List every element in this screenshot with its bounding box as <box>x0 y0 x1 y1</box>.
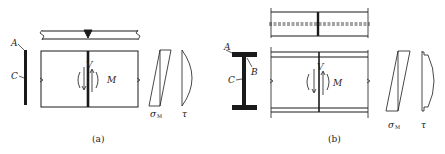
figure-canvas: A C V M σ M τ (a) <box>0 0 445 154</box>
label-b-shear-v: V <box>317 62 325 72</box>
label-tau: τ <box>182 109 188 119</box>
sigma-m-diagram-a <box>149 50 171 106</box>
label-b-moment-m: M <box>332 78 343 88</box>
label-a-top: A <box>10 38 18 48</box>
label-sigma: σ <box>150 109 157 119</box>
label-b-tau: τ <box>421 120 427 130</box>
sigma-m-diagram-b <box>386 51 410 111</box>
label-sigma-sub: M <box>157 113 162 119</box>
label-b-c-middle: C <box>228 75 235 85</box>
label-shear-v: V <box>86 60 94 70</box>
tau-diagram-b <box>422 51 434 111</box>
label-b-flange-web: B <box>250 67 258 77</box>
label-b-sigma: σ <box>388 120 395 130</box>
elevation-b <box>270 47 370 118</box>
caption-b: (b) <box>328 134 341 144</box>
weld-symbol-icon <box>84 30 92 38</box>
plate-section <box>24 50 27 105</box>
panel-a <box>18 30 192 107</box>
panel-b <box>226 8 434 118</box>
label-b-a-top: A <box>223 42 231 52</box>
tau-diagram-a <box>182 50 192 106</box>
i-section <box>232 52 257 110</box>
label-moment-m: M <box>106 75 117 85</box>
label-c-middle: C <box>11 71 18 81</box>
plan-view-b <box>269 8 370 38</box>
label-b-sigma-sub: M <box>395 124 400 130</box>
plan-view-a <box>40 30 140 40</box>
caption-a: (a) <box>92 134 104 144</box>
